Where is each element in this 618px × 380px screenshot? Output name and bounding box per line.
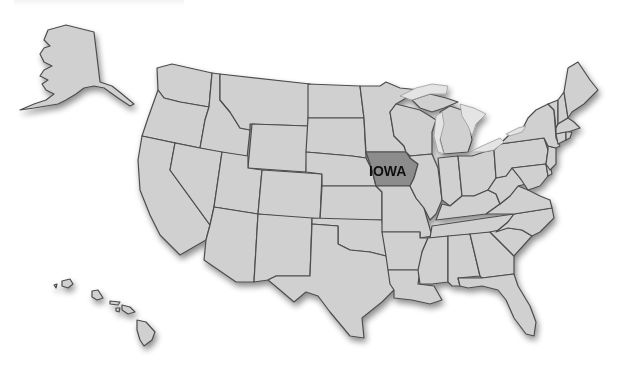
- alaska-inset: [20, 25, 134, 110]
- state-alaska[interactable]: [20, 25, 134, 110]
- state-rhode-island[interactable]: [566, 132, 572, 140]
- state-hawaii-kauai[interactable]: [62, 279, 73, 288]
- state-hawaii-oahu[interactable]: [92, 290, 103, 300]
- state-hawaii-molokai[interactable]: [110, 301, 120, 305]
- state-kansas[interactable]: [320, 186, 382, 220]
- state-wyoming[interactable]: [248, 124, 308, 172]
- us-map: IOWA: [0, 0, 618, 380]
- state-south-dakota[interactable]: [306, 118, 366, 158]
- state-arizona[interactable]: [204, 207, 258, 282]
- state-new-jersey[interactable]: [546, 146, 556, 170]
- state-maine[interactable]: [564, 62, 598, 118]
- state-hawaii-maui[interactable]: [122, 305, 135, 314]
- state-colorado[interactable]: [258, 170, 322, 220]
- iowa-label: IOWA: [369, 163, 406, 179]
- state-hawaii-big-island[interactable]: [137, 320, 155, 346]
- state-florida[interactable]: [458, 274, 536, 336]
- hawaii-inset: [54, 279, 155, 346]
- state-north-dakota[interactable]: [308, 84, 364, 118]
- state-hawaii-lanai[interactable]: [116, 308, 120, 312]
- state-new-mexico[interactable]: [254, 214, 312, 282]
- state-connecticut[interactable]: [556, 132, 566, 144]
- contiguous-us: IOWA: [138, 62, 598, 338]
- state-hawaii-niihau[interactable]: [54, 284, 57, 288]
